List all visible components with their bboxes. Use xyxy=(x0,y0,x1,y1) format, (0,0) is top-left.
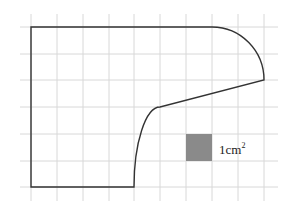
grid-lines xyxy=(20,14,278,201)
unit-square xyxy=(186,134,212,161)
grid-diagram xyxy=(0,0,287,213)
label-exponent: 2 xyxy=(241,141,245,150)
unit-square-label: 1cm2 xyxy=(219,138,245,158)
label-unit: cm xyxy=(226,142,242,157)
